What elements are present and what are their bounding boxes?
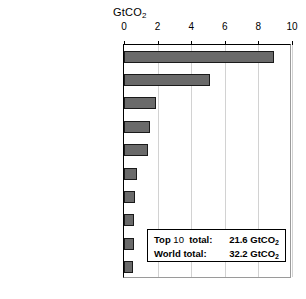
bar bbox=[124, 238, 134, 250]
x-axis-tick-label: 8 bbox=[243, 21, 273, 32]
bar-chart: GtCO2 0246810ChinaUnited StatesIndiaRuss… bbox=[0, 0, 306, 299]
chart-row: Japan bbox=[124, 139, 290, 162]
annotation-top10-label: Top 10 total: bbox=[154, 233, 212, 247]
x-axis-tick-label: 6 bbox=[210, 21, 240, 32]
bar bbox=[124, 261, 133, 273]
annotation-top10-unit-subscript: 2 bbox=[275, 239, 279, 246]
chart-row: Germany bbox=[124, 162, 290, 185]
chart-row: United States bbox=[124, 68, 290, 91]
annotation-world-label: World total: bbox=[154, 247, 207, 261]
bar bbox=[124, 51, 274, 63]
x-axis-tick-label: 4 bbox=[176, 21, 206, 32]
bar bbox=[124, 121, 150, 133]
x-axis-tick-label: 10 bbox=[277, 21, 306, 32]
x-axis-tick-label: 2 bbox=[143, 21, 173, 32]
annotation-world-unit-subscript: 2 bbox=[275, 253, 279, 260]
annotation-row-world: World total: 32.2 GtCO2 bbox=[154, 247, 279, 261]
chart-row: China bbox=[124, 45, 290, 68]
annotation-world-value: 32.2 GtCO2 bbox=[229, 247, 279, 261]
chart-row: India bbox=[124, 92, 290, 115]
chart-row: Russian Federation bbox=[124, 115, 290, 138]
annotation-top10-value: 21.6 GtCO2 bbox=[229, 233, 279, 247]
bar bbox=[124, 74, 210, 86]
axis-title-subscript: 2 bbox=[142, 11, 147, 20]
bar bbox=[124, 97, 156, 109]
axis-title-text: GtCO bbox=[113, 6, 142, 18]
bar bbox=[124, 144, 148, 156]
annotation-top10-count: 10 bbox=[173, 234, 184, 245]
x-axis-tick-label: 0 bbox=[109, 21, 139, 32]
bar bbox=[124, 191, 135, 203]
annotation-box: Top 10 total: 21.6 GtCO2 World total: 32… bbox=[147, 229, 286, 262]
bar bbox=[124, 214, 134, 226]
x-axis-tick bbox=[292, 41, 293, 45]
axis-title: GtCO2 bbox=[113, 6, 147, 18]
gridline bbox=[292, 45, 293, 277]
bar bbox=[124, 168, 137, 180]
annotation-row-top10: Top 10 total: 21.6 GtCO2 bbox=[154, 233, 279, 247]
chart-row: Korea bbox=[124, 185, 290, 208]
